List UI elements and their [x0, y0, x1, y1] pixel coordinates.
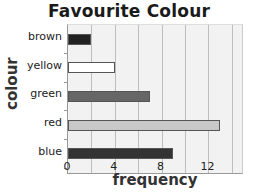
y-axis-title: colour: [3, 90, 21, 110]
y-tick: [64, 82, 68, 83]
x-tick-label: 0: [64, 160, 71, 173]
y-tick: [64, 139, 68, 140]
bar-yellow: [68, 62, 115, 73]
x-tick-label: 12: [200, 160, 214, 173]
gridline: [185, 25, 186, 173]
y-label-brown: brown: [28, 30, 62, 43]
x-tick-label: 4: [110, 160, 117, 173]
x-tick-label: 8: [157, 160, 164, 173]
bar-blue: [68, 148, 173, 159]
x-axis-title: frequency: [67, 171, 243, 189]
y-tick: [64, 110, 68, 111]
chart-title: Favourite Colour: [0, 1, 258, 21]
bar-brown: [68, 34, 91, 45]
bar-red: [68, 120, 220, 131]
gridline: [208, 25, 209, 173]
gridline: [232, 25, 233, 173]
plot-area: [67, 24, 243, 174]
y-label-red: red: [44, 116, 62, 129]
y-label-green: green: [30, 87, 62, 100]
y-tick: [64, 53, 68, 54]
y-label-blue: blue: [38, 145, 62, 158]
y-label-yellow: yellow: [27, 59, 62, 72]
bar-green: [68, 91, 150, 102]
